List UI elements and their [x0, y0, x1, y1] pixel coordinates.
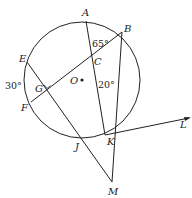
- label-l: L: [179, 119, 187, 130]
- label-m: M: [107, 186, 119, 197]
- arc-label-30: 30°: [5, 80, 22, 91]
- label-g: G: [35, 83, 43, 94]
- label-o: O: [70, 75, 78, 86]
- label-k: K: [106, 136, 115, 147]
- angle-label-65: 65°: [92, 38, 109, 49]
- angle-label-20: 20°: [98, 79, 115, 90]
- label-a: A: [81, 7, 89, 18]
- center-dot: [80, 78, 83, 81]
- label-c: C: [94, 56, 102, 67]
- tangent-kl: [105, 118, 189, 135]
- geometry-diagram: A B C E F G O J K L M 65° 20° 30°: [0, 0, 192, 198]
- segment-bm: [112, 32, 122, 182]
- label-f: F: [20, 102, 29, 113]
- label-j: J: [73, 141, 80, 152]
- label-b: B: [123, 23, 131, 34]
- label-e: E: [18, 53, 27, 64]
